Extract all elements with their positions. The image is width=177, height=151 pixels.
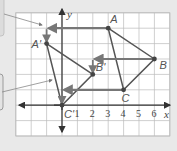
- x-tick-1: 1: [74, 108, 79, 119]
- x-tick-2: 2: [90, 108, 95, 119]
- x-tick-4: 4: [121, 108, 126, 119]
- callout-box-top: [0, 0, 4, 36]
- x-tick-6: 6: [151, 108, 156, 119]
- point-c-prime: [60, 103, 65, 108]
- label-a: A: [109, 13, 117, 25]
- point-a: [106, 26, 111, 31]
- label-a-prime: A': [31, 38, 42, 50]
- x-tick-3: 3: [105, 108, 110, 119]
- y-axis-label: y: [66, 8, 72, 20]
- label-c-prime: C': [64, 108, 75, 120]
- point-b: [152, 57, 157, 62]
- label-b: B: [159, 59, 166, 71]
- label-b-prime: B': [96, 61, 106, 73]
- label-c: C: [122, 92, 130, 104]
- x-tick-5: 5: [136, 108, 141, 119]
- point-a-prime: [44, 41, 49, 46]
- point-b-prime: [90, 72, 95, 77]
- x-axis-label: x: [163, 108, 169, 120]
- coordinate-plane-figure: 123456 x y ABCA'B'C': [0, 0, 177, 151]
